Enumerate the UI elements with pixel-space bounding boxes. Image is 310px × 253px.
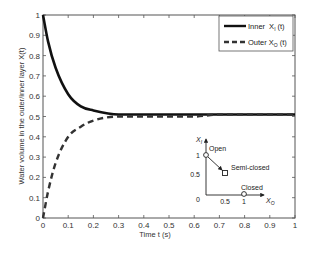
y-tick-label: 1 (36, 11, 41, 20)
y-tick-label: 0.7 (29, 72, 41, 81)
x-tick-label: 0.4 (138, 221, 150, 230)
closed-label: Closed (241, 184, 263, 191)
x-tick-label: 1 (293, 221, 298, 230)
x-tick-label: 0.9 (264, 221, 276, 230)
x-tick-label: 0 (41, 221, 46, 230)
inset-tick-x-1: 1 (242, 198, 246, 205)
y-tick-label: 0.2 (29, 173, 41, 182)
inset-tick-origin: 0 (196, 196, 200, 203)
y-axis-label: Water volume in the outer/inner layer X(… (17, 47, 26, 184)
inset-tick-y-1: 1 (196, 152, 200, 159)
x-tick-label: 0.5 (163, 221, 175, 230)
y-tick-label: 0.3 (29, 153, 41, 162)
inset-tick-x-05: 0.5 (220, 198, 230, 205)
closed-state-marker (242, 192, 247, 197)
x-tick-label: 0.2 (88, 221, 100, 230)
open-state-marker (204, 153, 209, 158)
x-tick-label: 0.1 (63, 221, 75, 230)
y-tick-label: 0.8 (29, 52, 41, 61)
y-tick-label: 0.9 (29, 31, 41, 40)
chart-svg: 00.10.20.30.40.50.60.70.80.91 00.10.20.3… (0, 0, 310, 253)
semi-closed-label: Semi-closed (231, 164, 270, 171)
y-tick-label: 0.4 (29, 133, 41, 142)
semi-closed-state-marker (223, 171, 228, 176)
x-tick-label: 0.7 (214, 221, 226, 230)
y-tick-label: 0.1 (29, 194, 41, 203)
inset-tick-y-05: 0.5 (190, 171, 200, 178)
x-tick-label: 0.8 (239, 221, 251, 230)
x-axis-label: Time t (s) (139, 230, 171, 239)
x-tick-label: 0.6 (189, 221, 201, 230)
y-tick-label: 0.6 (29, 92, 41, 101)
legend: InnerXI(t) OuterXO(t) (219, 16, 293, 51)
y-tick-label: 0.5 (29, 113, 41, 122)
x-tick-label: 0.3 (113, 221, 125, 230)
y-tick-label: 0 (36, 214, 41, 223)
open-label: Open (209, 145, 226, 153)
